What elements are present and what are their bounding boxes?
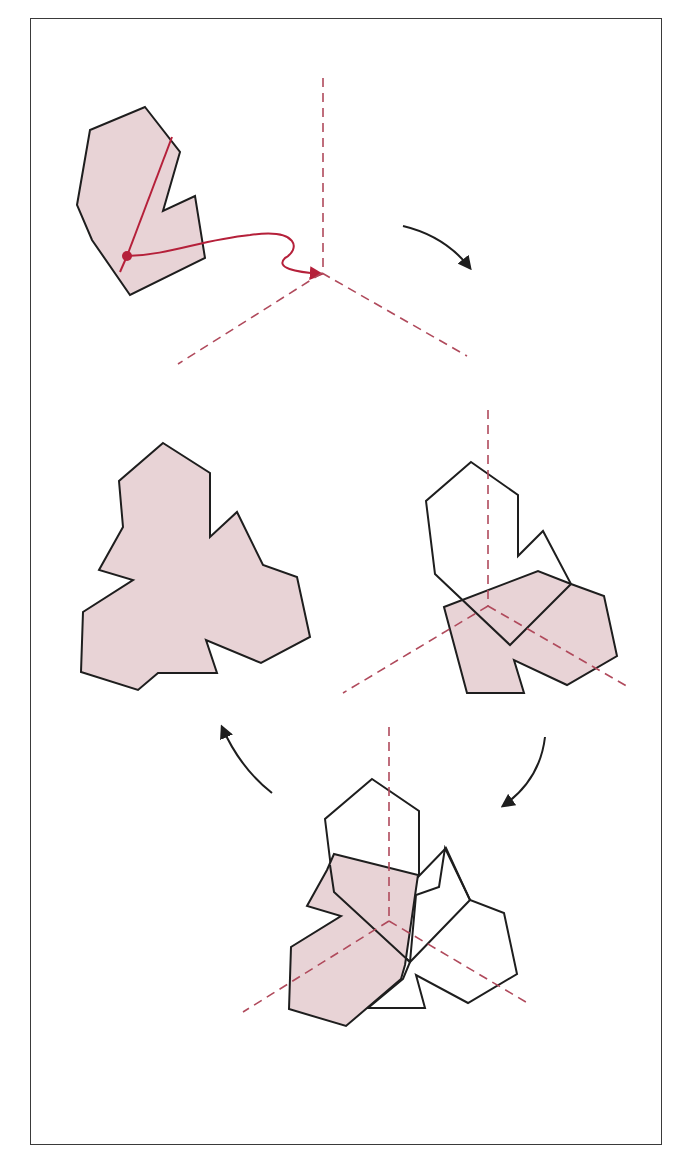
rotated-shape-1: [444, 571, 617, 693]
panel-step-1: [77, 78, 467, 364]
rotated-shape-2: [289, 854, 418, 1026]
axis-lower-right: [322, 273, 467, 356]
panel-step-4: [81, 443, 310, 690]
rotation-arrow-1: [403, 226, 470, 268]
panel-step-2: [343, 410, 630, 693]
symmetric-union-shape: [81, 443, 310, 690]
axis-lower-left: [178, 273, 322, 364]
original-shape: [77, 107, 205, 295]
rotation-arrow-3: [222, 727, 272, 793]
rotation-arrow-2: [503, 737, 545, 806]
panel-step-3: [243, 727, 531, 1026]
symmetry-diagram: [0, 0, 681, 1160]
